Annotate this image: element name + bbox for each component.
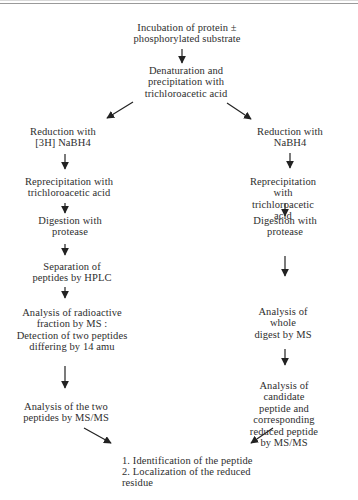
node-analysis-two-peptides: Analysis of the two peptides by MS/MS (23, 401, 109, 424)
node-digestion-left: Digestion with protease (38, 215, 102, 238)
node-conclusion: 1. Identification of the peptide 2. Loca… (122, 455, 253, 489)
node-reduction-left: Reduction with [3H] NaBH4 (30, 126, 96, 149)
flowchart-page: Incubation of protein ± phosphorylated s… (0, 0, 358, 500)
node-denaturation: Denaturation and precipitation with tric… (145, 65, 228, 99)
arrow-denaturation-to-left-branch (107, 102, 133, 118)
node-incubation: Incubation of protein ± phosphorylated s… (133, 22, 240, 45)
node-digestion-right: Digestion with protease (253, 215, 317, 238)
arrow-denaturation-to-right-branch (227, 103, 251, 119)
node-analysis-candidate: Analysis of candidate peptide and corres… (247, 380, 321, 448)
node-analysis-whole-digest: Analysis of whole digest by MS (246, 306, 321, 340)
node-reprecipitation-left: Reprecipitation with trichloroacetic aci… (25, 176, 113, 199)
node-separation-hplc: Separation of peptides by HPLC (32, 261, 111, 284)
node-analysis-radioactive: Analysis of radioactive fraction by MS :… (17, 307, 128, 353)
arrow-two-peptides-to-conclusion (84, 428, 111, 443)
node-reduction-right: Reduction with NaBH4 (257, 126, 323, 149)
